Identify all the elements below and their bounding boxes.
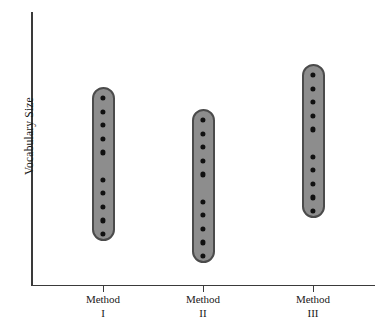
x-axis-category-label: MethodI — [58, 292, 148, 320]
category-label-line2: II — [158, 306, 248, 320]
data-point-dot — [310, 208, 315, 213]
data-point-dot — [100, 136, 105, 141]
data-point-dot — [310, 86, 315, 91]
data-column-capsule — [92, 87, 115, 241]
x-axis-tick — [203, 285, 204, 292]
data-point-dot — [100, 218, 105, 223]
data-point-dot — [100, 123, 105, 128]
category-label-line2: III — [268, 306, 358, 320]
data-point-dot — [200, 117, 205, 122]
x-axis-category-label: MethodII — [158, 292, 248, 320]
data-point-dot — [100, 204, 105, 209]
data-point-dot — [200, 240, 205, 245]
data-point-dot — [100, 95, 105, 100]
data-point-dot — [200, 145, 205, 150]
data-point-dot — [100, 231, 105, 236]
data-point-dot — [310, 72, 315, 77]
data-point-dot — [100, 150, 105, 155]
data-point-dot — [310, 195, 315, 200]
y-axis-label: Vocabulary Size — [23, 66, 35, 206]
data-point-dot — [200, 253, 205, 258]
data-column-capsule — [192, 109, 215, 263]
data-point-dot — [310, 168, 315, 173]
data-point-dot — [310, 113, 315, 118]
data-point-dot — [310, 127, 315, 132]
data-column-capsule — [302, 64, 325, 218]
data-point-dot — [310, 100, 315, 105]
category-label-line1: Method — [296, 293, 330, 305]
data-point-dot — [200, 158, 205, 163]
x-axis-tick — [103, 285, 104, 292]
data-point-dot — [310, 181, 315, 186]
category-label-line2: I — [58, 306, 148, 320]
data-point-dot — [100, 191, 105, 196]
data-point-dot — [200, 226, 205, 231]
dot-plot-chart: Vocabulary Size MethodIMethodIIMethodIII — [0, 0, 391, 329]
x-axis-category-label: MethodIII — [268, 292, 358, 320]
data-point-dot — [100, 177, 105, 182]
data-point-dot — [200, 199, 205, 204]
x-axis-tick — [313, 285, 314, 292]
data-point-dot — [200, 131, 205, 136]
data-point-dot — [100, 109, 105, 114]
category-label-line1: Method — [86, 293, 120, 305]
data-point-dot — [200, 213, 205, 218]
data-point-dot — [200, 172, 205, 177]
category-label-line1: Method — [186, 293, 220, 305]
data-point-dot — [310, 154, 315, 159]
